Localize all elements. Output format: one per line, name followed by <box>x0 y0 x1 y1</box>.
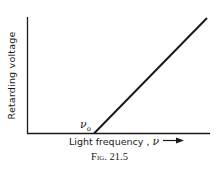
threshold-frequency-label: νo <box>80 118 91 133</box>
nu-subscript: o <box>87 125 91 133</box>
figure: Retarding voltage νo Light frequency , ν… <box>0 0 219 178</box>
x-axis-nu-symbol: ν <box>152 135 159 148</box>
x-axis-label: Light frequency , ν <box>69 135 159 148</box>
x-arrow-head-icon <box>176 138 184 144</box>
y-axis-label-text: Retarding voltage <box>7 31 18 119</box>
y-axis-label: Retarding voltage <box>3 20 21 130</box>
nu-symbol: ν <box>80 118 87 131</box>
x-axis-label-text: Light frequency , <box>69 136 149 147</box>
figure-caption: Fig. 21.5 <box>0 151 219 162</box>
data-line <box>94 18 207 134</box>
